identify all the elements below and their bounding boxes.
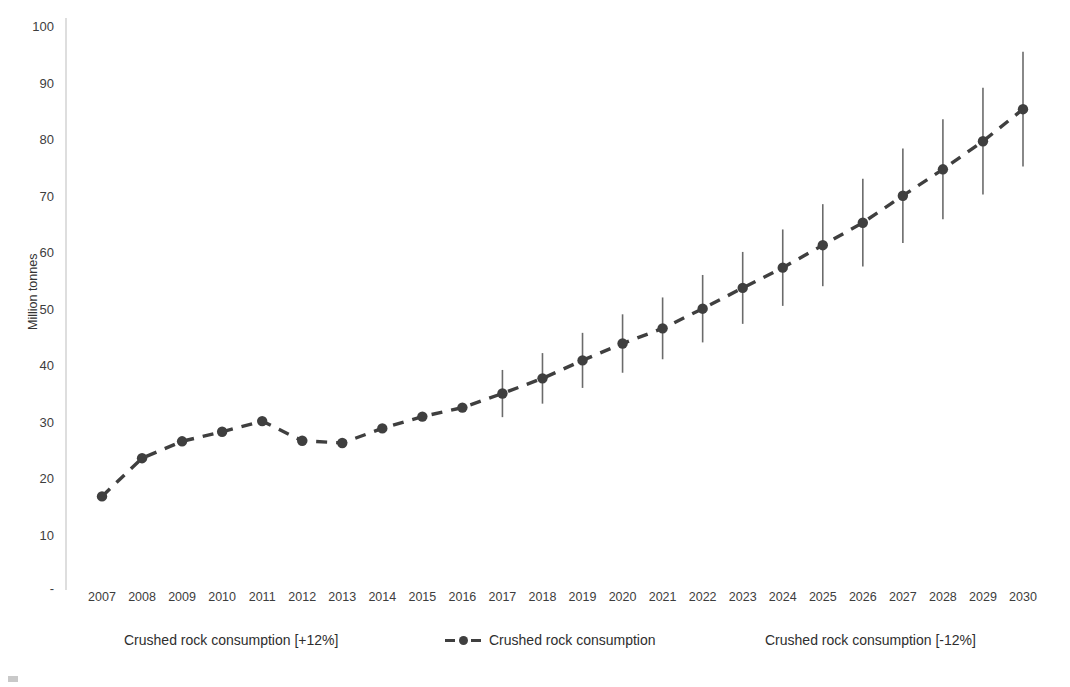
data-point bbox=[337, 438, 347, 448]
x-tick-label: 2009 bbox=[162, 590, 202, 604]
data-point bbox=[778, 262, 788, 272]
x-tick-label: 2018 bbox=[522, 590, 562, 604]
data-line-crushed-rock-consumption bbox=[102, 109, 1023, 496]
x-tick-label: 2029 bbox=[963, 590, 1003, 604]
x-tick-label: 2007 bbox=[82, 590, 122, 604]
x-tick-label: 2012 bbox=[282, 590, 322, 604]
data-point bbox=[457, 402, 467, 412]
data-point bbox=[697, 303, 707, 313]
legend-label: Crushed rock consumption [+12%] bbox=[124, 632, 338, 648]
data-point bbox=[497, 388, 507, 398]
legend-item-plus12[interactable]: Crushed rock consumption [+12%] bbox=[124, 632, 338, 648]
x-tick-label: 2013 bbox=[322, 590, 362, 604]
x-tick-label: 2026 bbox=[843, 590, 883, 604]
data-point bbox=[898, 191, 908, 201]
legend-line-marker-icon bbox=[445, 634, 481, 646]
x-tick-label: 2022 bbox=[683, 590, 723, 604]
data-point bbox=[137, 453, 147, 463]
plot-area bbox=[0, 0, 1070, 687]
x-tick-label: 2011 bbox=[242, 590, 282, 604]
x-tick-label: 2008 bbox=[122, 590, 162, 604]
data-point bbox=[257, 416, 267, 426]
x-tick-label: 2014 bbox=[362, 590, 402, 604]
x-tick-label: 2025 bbox=[803, 590, 843, 604]
data-point bbox=[657, 323, 667, 333]
data-point bbox=[617, 338, 627, 348]
x-tick-label: 2010 bbox=[202, 590, 242, 604]
data-point bbox=[417, 411, 427, 421]
data-point bbox=[818, 240, 828, 250]
data-point bbox=[217, 427, 227, 437]
x-tick-label: 2015 bbox=[402, 590, 442, 604]
data-point bbox=[537, 373, 547, 383]
x-tick-label: 2028 bbox=[923, 590, 963, 604]
data-markers bbox=[97, 104, 1028, 502]
x-tick-label: 2017 bbox=[482, 590, 522, 604]
x-tick-label: 2019 bbox=[563, 590, 603, 604]
x-tick-label: 2027 bbox=[883, 590, 923, 604]
x-tick-label: 2024 bbox=[763, 590, 803, 604]
data-point bbox=[1018, 104, 1028, 114]
page-footer-mark bbox=[8, 676, 18, 682]
chart-container: Million tonnes 100 90 80 70 60 50 40 30 … bbox=[0, 0, 1070, 687]
data-point bbox=[858, 218, 868, 228]
data-point bbox=[297, 436, 307, 446]
data-point bbox=[177, 436, 187, 446]
data-point bbox=[978, 136, 988, 146]
data-point bbox=[938, 164, 948, 174]
data-point bbox=[97, 491, 107, 501]
legend-item-minus12[interactable]: Crushed rock consumption [-12%] bbox=[765, 632, 976, 648]
x-tick-label: 2021 bbox=[643, 590, 683, 604]
data-point bbox=[377, 423, 387, 433]
legend-label: Crushed rock consumption [-12%] bbox=[765, 632, 976, 648]
x-tick-label: 2023 bbox=[723, 590, 763, 604]
x-tick-label: 2030 bbox=[1003, 590, 1043, 604]
x-tick-label: 2016 bbox=[442, 590, 482, 604]
x-tick-label: 2020 bbox=[603, 590, 643, 604]
data-point bbox=[737, 283, 747, 293]
legend-label: Crushed rock consumption bbox=[489, 632, 656, 648]
data-point bbox=[577, 355, 587, 365]
legend-item-main[interactable]: Crushed rock consumption bbox=[445, 632, 656, 648]
